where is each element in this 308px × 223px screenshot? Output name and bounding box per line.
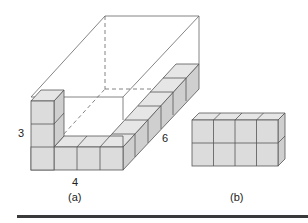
height-label: 3 xyxy=(18,128,24,139)
bottom-rule xyxy=(17,215,308,218)
width-label: 4 xyxy=(72,177,78,188)
box-b-cubes xyxy=(192,113,285,166)
caption-a: (a) xyxy=(68,192,81,203)
depth-label: 6 xyxy=(162,133,168,144)
caption-b: (b) xyxy=(230,192,243,203)
diagram-canvas xyxy=(0,0,308,223)
box-a-cubes xyxy=(31,64,199,170)
